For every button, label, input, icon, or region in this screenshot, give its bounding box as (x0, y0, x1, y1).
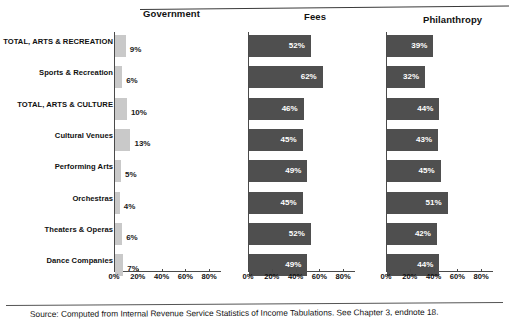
category-label: Cultural Venues (1, 131, 113, 140)
chart-panel-government: 9%6%10%13%5%4%6%7% 0%20%40%60%80% (114, 30, 239, 282)
bar-government (115, 160, 121, 182)
chart-panel-fees: 52%62%46%45%49%45%52%49% 0%20%40%60%80% (248, 30, 368, 282)
bar-value-label: 43% (387, 129, 438, 151)
bar-value-label: 44% (387, 98, 439, 120)
bar-row: 45% (387, 160, 504, 182)
bar-government (115, 98, 127, 120)
bar-value-label: 45% (249, 129, 303, 151)
bar-value-label: 39% (387, 35, 433, 57)
chart-panel-philanthropy: 39%32%44%43%45%51%42%44% 0%20%40%60%80% (386, 30, 504, 282)
bar-value-label: 10% (131, 102, 147, 124)
bar-row: 45% (249, 192, 368, 214)
x-axis-ticks-government: 0%20%40%60%80% (114, 272, 226, 284)
category-label: TOTAL, ARTS & RECREATION (1, 37, 113, 46)
tick-label: 20% (402, 272, 417, 281)
x-axis-ticks-philanthropy: 0%20%40%60%80% (386, 272, 498, 284)
bar-row: 51% (387, 192, 504, 214)
panel-title-government: Government (143, 8, 200, 19)
bar-value-label: 13% (134, 133, 150, 155)
bar-value-label: 42% (387, 223, 437, 245)
bar-value-label: 52% (249, 35, 311, 57)
bar-row: 9% (115, 35, 239, 57)
tick-label: 20% (130, 272, 145, 281)
bar-value-label: 9% (130, 39, 142, 61)
bar-row: 10% (115, 98, 239, 120)
bar-value-label: 52% (249, 223, 311, 245)
bar-row: 62% (249, 66, 368, 88)
bar-value-label: 6% (126, 227, 138, 249)
tick-label: 80% (336, 272, 351, 281)
bar-row: 44% (387, 98, 504, 120)
bar-value-label: 45% (387, 160, 441, 182)
bar-value-label: 51% (387, 192, 448, 214)
chart-figure: Government Fees Philanthropy TOTAL, ARTS… (0, 0, 509, 327)
bar-row: 45% (249, 129, 368, 151)
tick-label: 60% (450, 272, 465, 281)
source-note: Source: Computed from Internal Revenue S… (30, 307, 439, 319)
category-label: Orchestras (1, 194, 113, 203)
bar-government (115, 129, 130, 151)
category-label: Sports & Recreation (1, 68, 113, 77)
x-axis-ticks-fees: 0%20%40%60%80% (248, 272, 360, 284)
bar-value-label: 49% (249, 160, 307, 182)
bar-row: 5% (115, 160, 239, 182)
bar-row: 32% (387, 66, 504, 88)
panel-title-fees: Fees (304, 11, 326, 22)
tick-label: 80% (202, 272, 217, 281)
bar-group-fees: 52%62%46%45%49%45%52%49% (249, 33, 368, 272)
bar-value-label: 62% (249, 66, 323, 88)
tick-label: 40% (154, 272, 169, 281)
bar-government (115, 223, 122, 245)
bar-row: 43% (387, 129, 504, 151)
category-label: Theaters & Operas (1, 225, 113, 234)
category-label: Performing Arts (1, 162, 113, 171)
bar-value-label: 46% (249, 98, 304, 120)
tick-label: 20% (264, 272, 279, 281)
bar-value-label: 6% (126, 70, 138, 92)
bar-row: 6% (115, 223, 239, 245)
bar-row: 46% (249, 98, 368, 120)
bar-value-label: 32% (387, 66, 425, 88)
tick-label: 80% (474, 272, 489, 281)
tick-label: 0% (109, 272, 120, 281)
tick-label: 60% (178, 272, 193, 281)
category-label: TOTAL, ARTS & CULTURE (1, 100, 113, 109)
bar-row: 13% (115, 129, 239, 151)
bar-row: 49% (249, 160, 368, 182)
bar-row: 52% (249, 223, 368, 245)
bar-value-label: 4% (124, 196, 136, 218)
bar-row: 4% (115, 192, 239, 214)
tick-label: 0% (381, 272, 392, 281)
bar-row: 6% (115, 66, 239, 88)
panel-title-philanthropy: Philanthropy (423, 14, 482, 25)
bar-government (115, 192, 120, 214)
footer-divider-rule (6, 302, 503, 306)
tick-label: 0% (243, 272, 254, 281)
bar-government (115, 35, 126, 57)
bar-row: 39% (387, 35, 504, 57)
tick-label: 40% (426, 272, 441, 281)
bar-row: 42% (387, 223, 504, 245)
bar-row: 52% (249, 35, 368, 57)
category-label-column: TOTAL, ARTS & RECREATIONSports & Recreat… (0, 30, 114, 282)
bar-value-label: 5% (125, 164, 137, 186)
category-label: Dance Companies (1, 256, 113, 265)
tick-label: 40% (288, 272, 303, 281)
bar-group-philanthropy: 39%32%44%43%45%51%42%44% (387, 33, 504, 272)
bar-group-government: 9%6%10%13%5%4%6%7% (115, 33, 239, 272)
tick-label: 60% (312, 272, 327, 281)
bar-value-label: 45% (249, 192, 303, 214)
bar-government (115, 66, 122, 88)
